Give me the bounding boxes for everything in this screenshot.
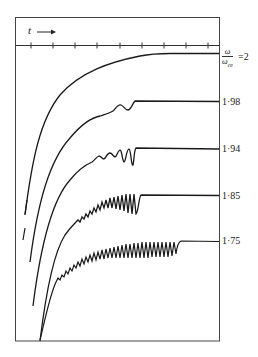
ratio-label: ω ωce =2 [222, 47, 233, 70]
ratio-numerator: ω [222, 47, 233, 57]
label-1-85: 1·85 [222, 191, 240, 201]
label-1-94: 1·94 [222, 144, 240, 154]
ratio-denominator-sub: ce [228, 62, 233, 68]
plot-frame [16, 18, 220, 342]
curve-1-98-gap-stroke [23, 228, 25, 240]
label-1-75: 1·75 [222, 236, 240, 246]
curve-1-85 [40, 194, 219, 341]
chart-figure [0, 0, 258, 357]
time-axis-label: t [28, 24, 31, 36]
ratio-equals-2: =2 [238, 51, 249, 62]
curve-1-98 [30, 101, 219, 262]
ratio-denominator: ωce [222, 57, 233, 70]
curve-1-75 [40, 241, 219, 340]
curve-2-00 [25, 54, 219, 216]
time-arrow-icon [37, 30, 56, 35]
label-1-98: 1·98 [222, 97, 240, 107]
curve-1-94 [33, 148, 219, 306]
